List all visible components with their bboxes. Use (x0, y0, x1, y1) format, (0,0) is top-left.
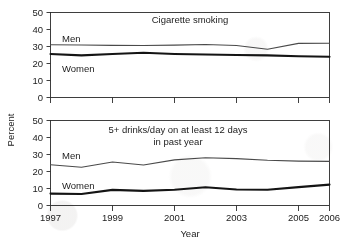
panel-bottom: 0 10 20 30 40 50 1997 1999 2001 (32, 115, 340, 224)
x-axis-title: Year (180, 228, 199, 239)
panel-top-x-ticks (51, 98, 330, 104)
panel-top-title: Cigarette smoking (152, 14, 229, 25)
y-tick-label-bottom-40: 40 (32, 132, 43, 143)
panel-top-y-axis: 0 10 20 30 40 50 (32, 7, 50, 103)
panel-top-men-label: Men (62, 33, 80, 44)
y-tick-label-top-20: 20 (32, 58, 43, 69)
y-tick-label-bottom-50: 50 (32, 115, 43, 126)
y-tick-label-top-0: 0 (38, 92, 43, 103)
panel-top-series-men (51, 43, 330, 49)
panel-bottom-y-axis: 0 10 20 30 40 50 (32, 115, 50, 211)
x-tick-label-1997: 1997 (40, 212, 61, 223)
y-tick-label-bottom-0: 0 (38, 200, 43, 211)
y-tick-label-bottom-20: 20 (32, 166, 43, 177)
x-tick-label-2006: 2006 (319, 212, 340, 223)
x-tick-label-1999: 1999 (102, 212, 123, 223)
panel-bottom-x-axis: 1997 1999 2001 2003 2005 2006 (40, 206, 340, 224)
panel-top-series-women (51, 53, 330, 57)
y-tick-label-bottom-30: 30 (32, 149, 43, 160)
panel-bottom-women-label: Women (62, 180, 95, 191)
y-tick-label-top-40: 40 (32, 24, 43, 35)
x-tick-label-2005: 2005 (288, 212, 309, 223)
y-tick-label-top-30: 30 (32, 41, 43, 52)
two-panel-line-chart: Percent 0 10 20 30 40 50 (0, 0, 346, 245)
figure-container: Percent 0 10 20 30 40 50 (0, 0, 346, 245)
panel-bottom-title-line1: 5+ drinks/day on at least 12 days (108, 124, 247, 135)
panel-bottom-title-line2: in past year (153, 136, 202, 147)
panel-top: 0 10 20 30 40 50 Cig (32, 7, 329, 104)
x-tick-label-2001: 2001 (164, 212, 185, 223)
y-tick-label-top-50: 50 (32, 7, 43, 18)
y-axis-title: Percent (5, 113, 16, 146)
panel-bottom-men-label: Men (62, 150, 80, 161)
x-tick-label-2003: 2003 (226, 212, 247, 223)
panel-bottom-series-men (51, 158, 330, 168)
panel-top-women-label: Women (62, 63, 95, 74)
y-tick-label-top-10: 10 (32, 75, 43, 86)
y-tick-label-bottom-10: 10 (32, 183, 43, 194)
